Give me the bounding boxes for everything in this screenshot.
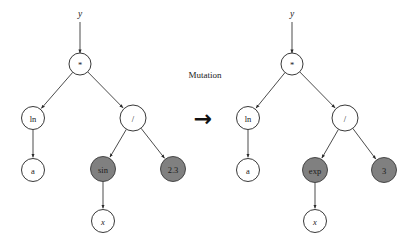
- tree-node-23[interactable]: 2.3: [161, 157, 186, 182]
- mutation-caption: Mutation: [189, 70, 222, 80]
- node-circle[interactable]: [237, 107, 260, 130]
- tree-node-[interactable]: /: [332, 105, 358, 131]
- tree-node-a[interactable]: a: [237, 159, 260, 182]
- mutation-figure: *ln/asin2.3x *ln/aexp3x y y Mutation →: [0, 0, 420, 251]
- node-circle[interactable]: [92, 210, 115, 233]
- node-circle[interactable]: [281, 53, 303, 75]
- tree-node-ln[interactable]: ln: [22, 107, 45, 130]
- tree-edge: [88, 72, 123, 108]
- tree-edge: [256, 73, 285, 109]
- left-root-input-label: y: [77, 9, 83, 19]
- right-root-input-label: y: [289, 9, 295, 19]
- right-tree-nodes: *ln/aexp3x: [237, 53, 397, 233]
- node-circle-shaded[interactable]: [303, 158, 328, 183]
- node-circle-shaded[interactable]: [372, 158, 397, 183]
- tree-diagram-canvas: *ln/asin2.3x *ln/aexp3x y y Mutation →: [0, 0, 420, 251]
- node-circle[interactable]: [22, 107, 45, 130]
- node-circle[interactable]: [332, 105, 358, 131]
- tree-edge: [300, 72, 335, 108]
- tree-node-[interactable]: /: [120, 105, 146, 131]
- node-circle-shaded[interactable]: [161, 157, 186, 182]
- tree-edge: [322, 129, 339, 158]
- node-circle[interactable]: [304, 210, 327, 233]
- tree-node-[interactable]: *: [281, 53, 303, 75]
- left-tree-nodes: *ln/asin2.3x: [22, 53, 186, 233]
- tree-node-[interactable]: *: [69, 53, 91, 75]
- node-circle[interactable]: [237, 159, 260, 182]
- tree-node-exp[interactable]: exp: [303, 158, 328, 183]
- tree-node-ln[interactable]: ln: [237, 107, 260, 130]
- tree-edge: [353, 128, 376, 159]
- tree-node-sin[interactable]: sin: [91, 157, 116, 182]
- node-circle-shaded[interactable]: [91, 157, 116, 182]
- tree-node-3[interactable]: 3: [372, 158, 397, 183]
- node-circle[interactable]: [120, 105, 146, 131]
- tree-node-x[interactable]: x: [92, 210, 115, 233]
- mutation-arrow-icon: →: [194, 106, 212, 131]
- tree-node-x[interactable]: x: [304, 210, 327, 233]
- node-circle[interactable]: [69, 53, 91, 75]
- node-circle[interactable]: [22, 159, 45, 182]
- tree-node-a[interactable]: a: [22, 159, 45, 182]
- tree-edge: [41, 72, 72, 108]
- tree-edge: [141, 128, 165, 158]
- tree-edge: [110, 129, 126, 157]
